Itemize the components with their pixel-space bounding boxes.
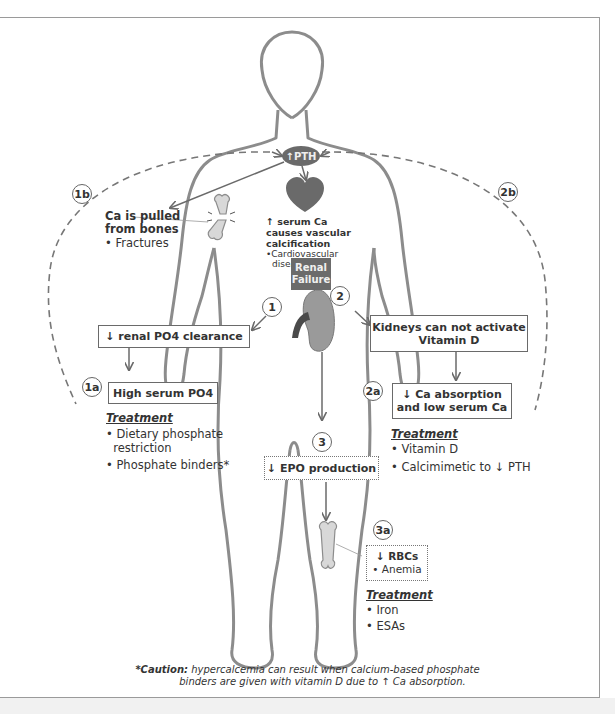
- heart-note-line-2: causes vascular: [266, 227, 351, 238]
- bones-title-line-2: from bones: [105, 223, 179, 236]
- renal-failure-line-2: Failure: [291, 274, 331, 286]
- badge-2a: 2a: [363, 381, 383, 401]
- badge-1a: 1a: [82, 377, 102, 397]
- epo-production-text: ↓ EPO production: [267, 462, 376, 475]
- heart-icon: [286, 177, 324, 212]
- high-serum-po4-text: High serum PO4: [113, 387, 213, 400]
- caution-footnote: *Caution: hypercalcemia can result when …: [0, 664, 615, 688]
- pth-oval: ↑PTH: [282, 146, 320, 166]
- caution-line-2: binders are given with vitamin D due to …: [0, 676, 615, 688]
- kidneys-vitamin-d-line-1: Kidneys can not activate: [372, 321, 525, 334]
- heart-note-line-1: ↑ serum Ca: [266, 216, 327, 227]
- treatment-1-item-1-cont: restriction: [106, 441, 172, 455]
- rbcs-bullet: • Anemia: [372, 563, 421, 576]
- badge-1b: 1b: [72, 184, 92, 204]
- ca-absorption-box: ↓ Ca absorption and low serum Ca: [392, 383, 512, 419]
- caution-text-1: hypercalcemia can result when calcium-ba…: [188, 664, 480, 675]
- treatment-heading-2: Treatment: [391, 428, 458, 441]
- heart-note-line-3: calcification: [266, 238, 330, 249]
- treatment-1-item-2: • Phosphate binders*: [106, 458, 229, 472]
- badge-3a: 3a: [373, 520, 393, 540]
- treatment-3-item-1: • Iron: [366, 603, 399, 617]
- kidneys-vitamin-d-line-2: Vitamin D: [419, 334, 480, 347]
- treatment-2-item-1: • Vitamin D: [391, 442, 458, 456]
- kidneys-vitamin-d-box: Kidneys can not activate Vitamin D: [370, 315, 528, 352]
- treatment-2-item-2: • Calcimimetic to ↓ PTH: [391, 460, 531, 474]
- fractured-bone-icon: [208, 195, 229, 240]
- ca-absorption-line-2: and low serum Ca: [397, 401, 507, 414]
- ca-absorption-line-1: ↓ Ca absorption: [402, 388, 502, 401]
- body-diagram-art: [0, 0, 615, 714]
- rbcs-box: ↓ RBCs • Anemia: [366, 545, 428, 581]
- badge-2: 2: [330, 286, 350, 306]
- caution-line-1: *Caution: hypercalcemia can result when …: [0, 664, 615, 676]
- treatment-1-item-1: • Dietary phosphate: [106, 427, 223, 441]
- rbcs-title: ↓ RBCs: [376, 550, 419, 563]
- renal-failure-label: Renal Failure: [291, 258, 331, 290]
- badge-1: 1: [262, 297, 282, 317]
- renal-failure-line-1: Renal: [291, 262, 331, 274]
- renal-po4-clearance-text: ↓ renal PO4 clearance: [105, 330, 243, 343]
- bones-bullet: • Fractures: [105, 237, 169, 250]
- treatment-heading-3: Treatment: [366, 589, 433, 602]
- leg-bone-icon: [319, 522, 336, 569]
- caution-label: *Caution:: [135, 664, 188, 675]
- kidney-icon: [292, 290, 334, 351]
- badge-3: 3: [312, 432, 332, 452]
- treatment-heading-1: Treatment: [106, 412, 173, 425]
- treatment-3-item-2: • ESAs: [366, 619, 405, 633]
- renal-po4-clearance-box: ↓ renal PO4 clearance: [98, 325, 250, 348]
- badge-2b: 2b: [498, 182, 518, 202]
- epo-production-box: ↓ EPO production: [264, 456, 379, 480]
- high-serum-po4-box: High serum PO4: [108, 382, 218, 404]
